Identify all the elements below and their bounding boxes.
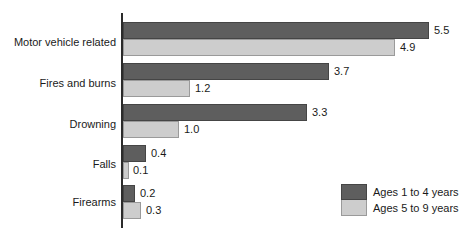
legend-item-ages-5-to-9: Ages 5 to 9 years xyxy=(341,200,459,216)
bar-drowning-ages-5-to-9 xyxy=(123,121,179,138)
bar-falls-ages-1-to-4 xyxy=(123,145,146,162)
value-label-falls-ages-5-to-9: 0.1 xyxy=(133,164,148,176)
chart-legend: Ages 1 to 4 years Ages 5 to 9 years xyxy=(341,184,459,216)
bar-firearms-ages-1-to-4 xyxy=(123,185,135,202)
value-label-firearms-ages-5-to-9: 0.3 xyxy=(146,204,161,216)
value-label-drowning-ages-5-to-9: 1.0 xyxy=(184,123,199,135)
bar-drowning-ages-1-to-4 xyxy=(123,104,307,121)
value-label-falls-ages-1-to-4: 0.4 xyxy=(151,147,166,159)
bar-chart: Motor vehicle related Fires and burns Dr… xyxy=(0,0,468,235)
value-label-motor-vehicle-related-ages-5-to-9: 4.9 xyxy=(400,41,415,53)
value-label-drowning-ages-1-to-4: 3.3 xyxy=(312,106,327,118)
bar-fires-and-burns-ages-1-to-4 xyxy=(123,63,329,80)
legend-label-ages-1-to-4: Ages 1 to 4 years xyxy=(373,186,459,198)
bar-motor-vehicle-related-ages-5-to-9 xyxy=(123,39,395,56)
value-label-firearms-ages-1-to-4: 0.2 xyxy=(140,187,155,199)
category-label-drowning: Drowning xyxy=(0,118,116,130)
bar-motor-vehicle-related-ages-1-to-4 xyxy=(123,22,429,39)
value-label-fires-and-burns-ages-5-to-9: 1.2 xyxy=(195,82,210,94)
bar-fires-and-burns-ages-5-to-9 xyxy=(123,80,190,97)
category-label-firearms: Firearms xyxy=(0,196,116,208)
value-label-motor-vehicle-related-ages-1-to-4: 5.5 xyxy=(434,24,449,36)
value-label-fires-and-burns-ages-1-to-4: 3.7 xyxy=(334,65,349,77)
legend-item-ages-1-to-4: Ages 1 to 4 years xyxy=(341,184,459,200)
legend-label-ages-5-to-9: Ages 5 to 9 years xyxy=(373,202,459,214)
category-label-fires-and-burns: Fires and burns xyxy=(0,77,116,89)
category-label-falls: Falls xyxy=(0,158,116,170)
bar-firearms-ages-5-to-9 xyxy=(123,202,141,219)
bar-falls-ages-5-to-9 xyxy=(123,162,129,179)
category-label-motor-vehicle-related: Motor vehicle related xyxy=(0,36,116,48)
legend-swatch-dark-icon xyxy=(341,184,367,200)
legend-swatch-light-icon xyxy=(341,200,367,216)
